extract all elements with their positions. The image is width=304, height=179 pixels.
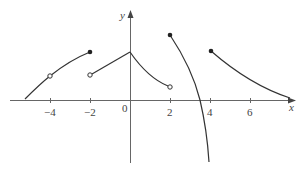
open-point bbox=[168, 85, 172, 89]
curve-piece-2 bbox=[92, 52, 130, 74]
x-axis-label: x bbox=[288, 101, 294, 113]
tick-label: −2 bbox=[84, 106, 96, 118]
open-point bbox=[88, 73, 92, 77]
curve-piece-5 bbox=[211, 51, 290, 98]
tick-label: 0 bbox=[122, 102, 128, 114]
tick-label: 6 bbox=[247, 106, 253, 118]
curve-piece-1 bbox=[25, 52, 90, 99]
tick-label: −4 bbox=[44, 106, 56, 118]
y-axis-label: y bbox=[119, 9, 125, 21]
tick-label: 2 bbox=[167, 106, 173, 118]
closed-point bbox=[88, 50, 93, 55]
curve-piece-4 bbox=[170, 35, 209, 162]
y-axis-arrow-icon bbox=[128, 10, 134, 18]
closed-point bbox=[209, 49, 214, 54]
tick-label: 4 bbox=[207, 106, 213, 118]
chart: y x −4 −2 0 2 4 6 bbox=[0, 0, 304, 179]
curve-piece-3 bbox=[130, 52, 168, 86]
open-point bbox=[48, 74, 52, 78]
closed-point bbox=[168, 33, 173, 38]
